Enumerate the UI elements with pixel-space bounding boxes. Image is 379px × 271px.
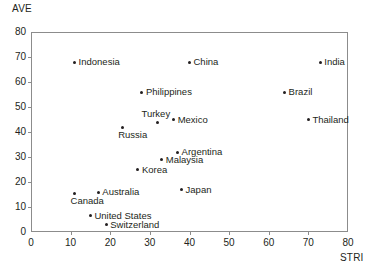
x-axis-title: STRI	[340, 252, 364, 263]
x-tick-label: 70	[296, 237, 320, 248]
y-tick-label: 50	[4, 101, 26, 112]
y-tick-mark	[28, 132, 31, 133]
x-tick-label: 0	[19, 237, 43, 248]
x-tick-label: 10	[59, 237, 83, 248]
data-point-label: Mexico	[178, 115, 208, 125]
x-tick-mark	[110, 232, 111, 235]
y-tick-mark	[28, 207, 31, 208]
y-tick-mark	[28, 182, 31, 183]
data-point	[73, 61, 76, 64]
data-point	[307, 118, 310, 121]
data-point-label: Canada	[71, 196, 104, 206]
data-point-label: Australia	[102, 187, 139, 197]
x-tick-mark	[269, 232, 270, 235]
y-tick-label: 60	[4, 76, 26, 87]
data-point	[188, 61, 191, 64]
y-tick-label: 30	[4, 151, 26, 162]
y-tick-mark	[28, 107, 31, 108]
data-point	[283, 91, 286, 94]
data-point-label: China	[194, 57, 219, 67]
data-point	[105, 223, 108, 226]
y-tick-label: 80	[4, 26, 26, 37]
data-point-label: Turkey	[141, 109, 170, 119]
x-tick-mark	[190, 232, 191, 235]
data-point-label: Malaysia	[166, 155, 204, 165]
data-point	[97, 191, 100, 194]
data-point-label: Philippines	[146, 87, 192, 97]
data-point	[319, 61, 322, 64]
data-point-label: Brazil	[289, 87, 313, 97]
data-point-label: Thailand	[312, 115, 348, 125]
x-tick-label: 80	[336, 237, 360, 248]
y-tick-label: 0	[4, 226, 26, 237]
y-tick-label: 20	[4, 176, 26, 187]
data-point	[156, 121, 159, 124]
y-axis-title: AVE	[12, 3, 32, 14]
data-point-label: Switzerland	[110, 220, 159, 230]
x-tick-label: 30	[138, 237, 162, 248]
data-point-label: Japan	[186, 185, 212, 195]
x-tick-mark	[71, 232, 72, 235]
y-tick-mark	[28, 57, 31, 58]
x-tick-label: 20	[98, 237, 122, 248]
data-point-label: Indonesia	[79, 57, 120, 67]
data-point-label: Korea	[142, 165, 167, 175]
x-tick-mark	[229, 232, 230, 235]
x-tick-label: 60	[257, 237, 281, 248]
y-tick-label: 40	[4, 126, 26, 137]
y-tick-label: 70	[4, 51, 26, 62]
data-point-label: Russia	[118, 130, 147, 140]
x-tick-label: 50	[217, 237, 241, 248]
y-tick-label: 10	[4, 201, 26, 212]
x-tick-mark	[150, 232, 151, 235]
y-tick-mark	[28, 82, 31, 83]
scatter-chart: AVE STRI 01020304050607080 0102030405060…	[0, 0, 379, 271]
data-point-label: India	[324, 57, 345, 67]
x-tick-mark	[308, 232, 309, 235]
x-tick-label: 40	[178, 237, 202, 248]
y-tick-mark	[28, 157, 31, 158]
